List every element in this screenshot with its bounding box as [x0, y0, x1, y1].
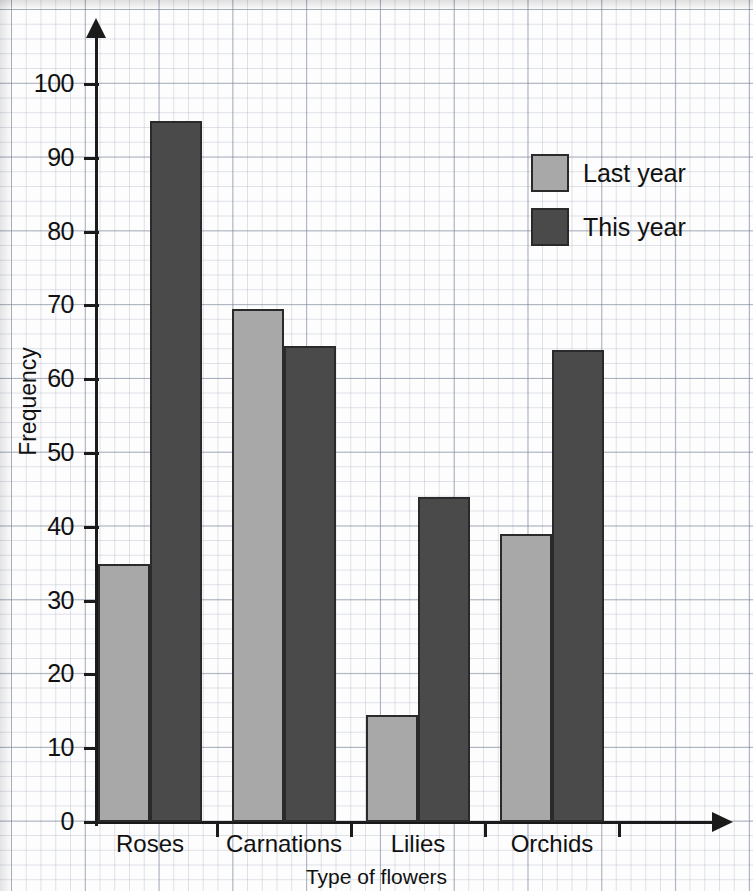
legend-item-this-year[interactable]: This year	[531, 204, 741, 250]
y-tick-40	[84, 526, 99, 529]
bar-roses-last-year[interactable]	[98, 564, 150, 822]
y-tick-label-60: 60	[47, 366, 74, 391]
x-axis-arrow-icon	[712, 812, 733, 832]
y-tick-20	[84, 673, 99, 676]
y-tick-label-30: 30	[47, 588, 74, 613]
graph-paper-sheet: 1009080706050403020100 RosesCarnationsLi…	[0, 0, 753, 891]
y-tick-label-10: 10	[47, 735, 74, 760]
last-year-swatch-icon	[531, 154, 569, 192]
y-tick-label-90: 90	[47, 145, 74, 170]
y-tick-label-70: 70	[47, 292, 74, 317]
bar-roses-this-year[interactable]	[150, 121, 202, 822]
legend-item-last-year[interactable]: Last year	[531, 150, 741, 196]
y-tick-30	[84, 600, 99, 603]
y-tick-90	[84, 157, 99, 160]
legend-label-this-year: This year	[583, 215, 686, 240]
legend: Last year This year	[531, 150, 741, 258]
bar-lilies-last-year[interactable]	[366, 715, 418, 822]
y-tick-100	[84, 83, 99, 86]
y-axis-title: Frequency	[17, 312, 40, 492]
bar-orchids-this-year[interactable]	[552, 350, 604, 822]
y-tick-80	[84, 231, 99, 234]
y-tick-label-100: 100	[34, 71, 74, 96]
bar-chart: 1009080706050403020100 RosesCarnationsLi…	[0, 0, 753, 891]
x-axis-title: Type of flowers	[0, 866, 753, 887]
y-tick-label-20: 20	[47, 661, 74, 686]
bar-carnations-this-year[interactable]	[284, 346, 336, 822]
y-tick-label-80: 80	[47, 219, 74, 244]
y-tick-label-40: 40	[47, 514, 74, 539]
y-tick-70	[84, 304, 99, 307]
bar-lilies-this-year[interactable]	[418, 497, 470, 822]
this-year-swatch-icon	[531, 208, 569, 246]
legend-label-last-year: Last year	[583, 161, 686, 186]
y-tick-label-50: 50	[47, 440, 74, 465]
x-label-orchids: Orchids	[472, 832, 632, 856]
bar-carnations-last-year[interactable]	[232, 309, 284, 822]
y-tick-50	[84, 452, 99, 455]
y-tick-60	[84, 378, 99, 381]
y-axis-arrow-icon	[86, 18, 106, 38]
y-tick-10	[84, 747, 99, 750]
y-tick-label-0: 0	[61, 809, 74, 834]
bar-orchids-last-year[interactable]	[500, 534, 552, 822]
y-tick-0	[84, 821, 99, 824]
